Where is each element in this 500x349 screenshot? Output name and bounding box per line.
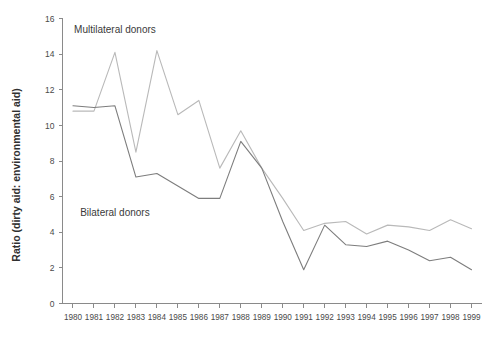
chart-canvas: 0246810121416 19801981198219831984198519… (0, 0, 500, 349)
y-tick-label: 4 (50, 227, 55, 237)
series-label-bilateral-donors: Bilateral donors (80, 207, 149, 218)
series-label-multilateral-donors: Multilateral donors (74, 24, 156, 35)
x-tick-label: 1998 (441, 313, 460, 322)
y-tick-label: 10 (45, 121, 55, 131)
y-tick-label: 0 (50, 299, 55, 309)
x-tick-label: 1987 (211, 313, 230, 322)
y-tick-label: 6 (50, 192, 55, 202)
x-tick-label: 1997 (420, 313, 439, 322)
y-tick-label: 2 (50, 263, 55, 273)
y-tick-label: 8 (50, 156, 55, 166)
x-tick-label: 1980 (64, 313, 83, 322)
x-tick-label: 1993 (337, 313, 356, 322)
x-tick-label: 1983 (127, 313, 146, 322)
y-tick-label: 16 (45, 14, 55, 24)
x-tick-label: 1988 (232, 313, 251, 322)
series-line-bilateral-donors (73, 106, 472, 270)
x-axis: 1980198119821983198419851986198719881989… (63, 304, 483, 322)
x-tick-label: 1986 (190, 313, 209, 322)
x-tick-label: 1982 (106, 313, 125, 322)
y-axis: 0246810121416 (45, 14, 62, 309)
x-tick-label: 1989 (253, 313, 272, 322)
x-tick-label: 1996 (399, 313, 418, 322)
x-tick-label: 1995 (379, 313, 398, 322)
x-tick-label: 1992 (316, 313, 335, 322)
line-chart: 0246810121416 19801981198219831984198519… (0, 0, 500, 349)
x-tick-label: 1999 (462, 313, 481, 322)
y-tick-label: 12 (45, 85, 55, 95)
series-lines (73, 51, 472, 270)
y-axis-title: Ratio (dirty aid: environmental aid) (10, 88, 22, 261)
x-tick-label: 1990 (274, 313, 293, 322)
x-tick-label: 1994 (358, 313, 377, 322)
x-tick-label: 1984 (148, 313, 167, 322)
x-tick-label: 1991 (295, 313, 314, 322)
x-tick-label: 1985 (169, 313, 188, 322)
x-tick-label: 1981 (85, 313, 104, 322)
y-tick-label: 14 (45, 49, 55, 59)
